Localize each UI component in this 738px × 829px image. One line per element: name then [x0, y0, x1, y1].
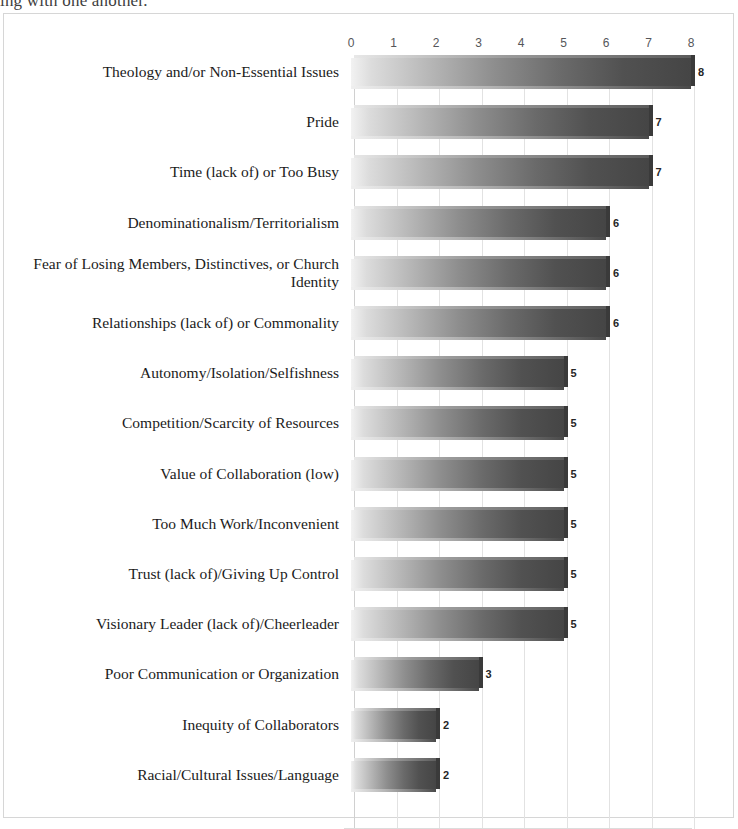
bar	[351, 457, 569, 491]
bar-top-face	[354, 657, 482, 660]
bar-value-label: 5	[571, 468, 577, 480]
chart-frame: 012345678 Theology and/or Non-Essential …	[3, 13, 734, 818]
bar-row: Denominationalism/Territorialism6	[1, 198, 738, 248]
bar-top-face	[354, 607, 567, 610]
bar-body	[351, 259, 606, 287]
bar-side-face	[606, 256, 610, 287]
bar-bottom-face	[351, 136, 649, 139]
bar-side-face	[564, 457, 568, 488]
bar	[351, 306, 611, 340]
bar-top-face	[354, 457, 567, 460]
scan-cutoff-text: ing with one another.	[0, 0, 300, 11]
bar-body	[351, 409, 564, 437]
bar-top-face	[354, 105, 652, 108]
bar-value-label: 5	[571, 417, 577, 429]
bar-body	[351, 510, 564, 538]
bar-value-label: 5	[571, 367, 577, 379]
bar-value-label: 7	[656, 116, 662, 128]
bar	[351, 607, 569, 641]
bar-value-label: 6	[613, 217, 619, 229]
bar	[351, 507, 569, 541]
bar-side-face	[436, 708, 440, 739]
bar-row: Trust (lack of)/Giving Up Control5	[1, 549, 738, 599]
bar-top-face	[354, 758, 439, 761]
bar-row: Autonomy/Isolation/Selfishness5	[1, 348, 738, 398]
bar-top-face	[354, 206, 609, 209]
bar-row: Poor Communication or Organization3	[1, 649, 738, 699]
bar-body	[351, 209, 606, 237]
bar-side-face	[691, 55, 695, 86]
bar-side-face	[649, 105, 653, 136]
bar-bottom-face	[351, 387, 564, 390]
category-label: Trust (lack of)/Giving Up Control	[9, 565, 339, 583]
bar-row: Too Much Work/Inconvenient5	[1, 499, 738, 549]
bar-side-face	[564, 356, 568, 387]
bar-bottom-face	[351, 739, 436, 742]
bar-bottom-face	[351, 538, 564, 541]
bar-value-label: 7	[656, 166, 662, 178]
category-label: Time (lack of) or Too Busy	[9, 163, 339, 181]
bar-row: Time (lack of) or Too Busy7	[1, 147, 738, 197]
category-label: Pride	[9, 113, 339, 131]
bar-value-label: 2	[443, 719, 449, 731]
bar-row: Pride7	[1, 97, 738, 147]
bar-value-label: 2	[443, 769, 449, 781]
bar-bottom-face	[351, 638, 564, 641]
bar	[351, 557, 569, 591]
bar-top-face	[354, 256, 609, 259]
bar	[351, 105, 654, 139]
bar-bottom-face	[351, 186, 649, 189]
bar-top-face	[354, 406, 567, 409]
category-label: Autonomy/Isolation/Selfishness	[9, 364, 339, 382]
bar-value-label: 3	[486, 668, 492, 680]
bar-bottom-face	[351, 237, 606, 240]
category-label: Value of Collaboration (low)	[9, 465, 339, 483]
bar-value-label: 6	[613, 267, 619, 279]
category-label: Relationships (lack of) or Commonality	[9, 314, 339, 332]
bar-row: Fear of Losing Members, Distinctives, or…	[1, 248, 738, 298]
bar-top-face	[354, 557, 567, 560]
bar-top-face	[354, 708, 439, 711]
bar	[351, 55, 696, 89]
bar-row: Theology and/or Non-Essential Issues8	[1, 47, 738, 97]
bar-bottom-face	[351, 86, 691, 89]
bar-top-face	[354, 356, 567, 359]
bar	[351, 155, 654, 189]
bar-top-face	[354, 507, 567, 510]
bar-bottom-face	[351, 688, 479, 691]
bar-top-face	[354, 155, 652, 158]
category-label: Theology and/or Non-Essential Issues	[9, 63, 339, 81]
bar-side-face	[564, 607, 568, 638]
bar-value-label: 8	[698, 66, 704, 78]
bar-side-face	[564, 557, 568, 588]
bar-bottom-face	[351, 789, 436, 792]
bar	[351, 708, 441, 742]
bar-value-label: 5	[571, 618, 577, 630]
bar-value-label: 5	[571, 518, 577, 530]
bar-row: Inequity of Collaborators2	[1, 700, 738, 750]
bar-bottom-face	[351, 287, 606, 290]
category-label: Too Much Work/Inconvenient	[9, 515, 339, 533]
category-label: Visionary Leader (lack of)/Cheerleader	[9, 615, 339, 633]
bar-row: Value of Collaboration (low)5	[1, 449, 738, 499]
bar-body	[351, 460, 564, 488]
bar-value-label: 5	[571, 568, 577, 580]
bar-side-face	[564, 406, 568, 437]
bar-top-face	[354, 306, 609, 309]
category-label: Competition/Scarcity of Resources	[9, 414, 339, 432]
bar-body	[351, 158, 649, 186]
bar-bottom-face	[351, 337, 606, 340]
bar-body	[351, 610, 564, 638]
bar	[351, 256, 611, 290]
bar-side-face	[479, 657, 483, 688]
bar	[351, 657, 484, 691]
bar-row: Relationships (lack of) or Commonality6	[1, 298, 738, 348]
category-label: Fear of Losing Members, Distinctives, or…	[9, 255, 339, 291]
bar-row: Visionary Leader (lack of)/Cheerleader5	[1, 599, 738, 649]
bar-body	[351, 560, 564, 588]
bar	[351, 206, 611, 240]
bar-body	[351, 108, 649, 136]
bar-side-face	[564, 507, 568, 538]
bar-bottom-face	[351, 488, 564, 491]
bar	[351, 406, 569, 440]
